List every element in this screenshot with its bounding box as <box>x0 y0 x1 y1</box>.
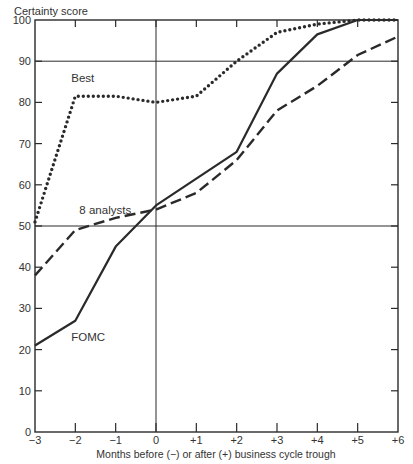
x-tick-label: +1 <box>190 434 203 446</box>
y-tick-label: 90 <box>19 55 31 67</box>
x-tick-label: +2 <box>230 434 243 446</box>
x-tick-label: +3 <box>271 434 284 446</box>
y-tick-label: 40 <box>19 261 31 273</box>
x-axis-title: Months before (−) or after (+) business … <box>96 448 335 460</box>
series-labels: Best8 analystsFOMC <box>71 72 131 344</box>
series-label-best: Best <box>71 72 95 84</box>
series-fomc <box>35 20 398 346</box>
x-tick-label: +6 <box>392 434 405 446</box>
series-label-fomc: FOMC <box>71 331 105 343</box>
line-chart: Certainty score 0102030405060708090100−3… <box>0 0 413 464</box>
y-tick-label: 100 <box>13 14 31 26</box>
x-tick-label: −3 <box>29 434 42 446</box>
data-series <box>35 20 398 346</box>
x-tick-label: 0 <box>153 434 159 446</box>
y-tick-label: 80 <box>19 96 31 108</box>
x-tick-label: −2 <box>69 434 82 446</box>
y-tick-label: 70 <box>19 138 31 150</box>
x-tick-label: +5 <box>351 434 364 446</box>
series-label-8-analysts: 8 analysts <box>79 204 131 216</box>
y-tick-label: 20 <box>19 344 31 356</box>
y-tick-label: 60 <box>19 179 31 191</box>
x-tick-label: +4 <box>311 434 324 446</box>
x-tick-label: −1 <box>109 434 122 446</box>
series-best <box>35 20 398 222</box>
y-tick-label: 10 <box>19 385 31 397</box>
y-tick-label: 30 <box>19 302 31 314</box>
y-tick-label: 50 <box>19 220 31 232</box>
